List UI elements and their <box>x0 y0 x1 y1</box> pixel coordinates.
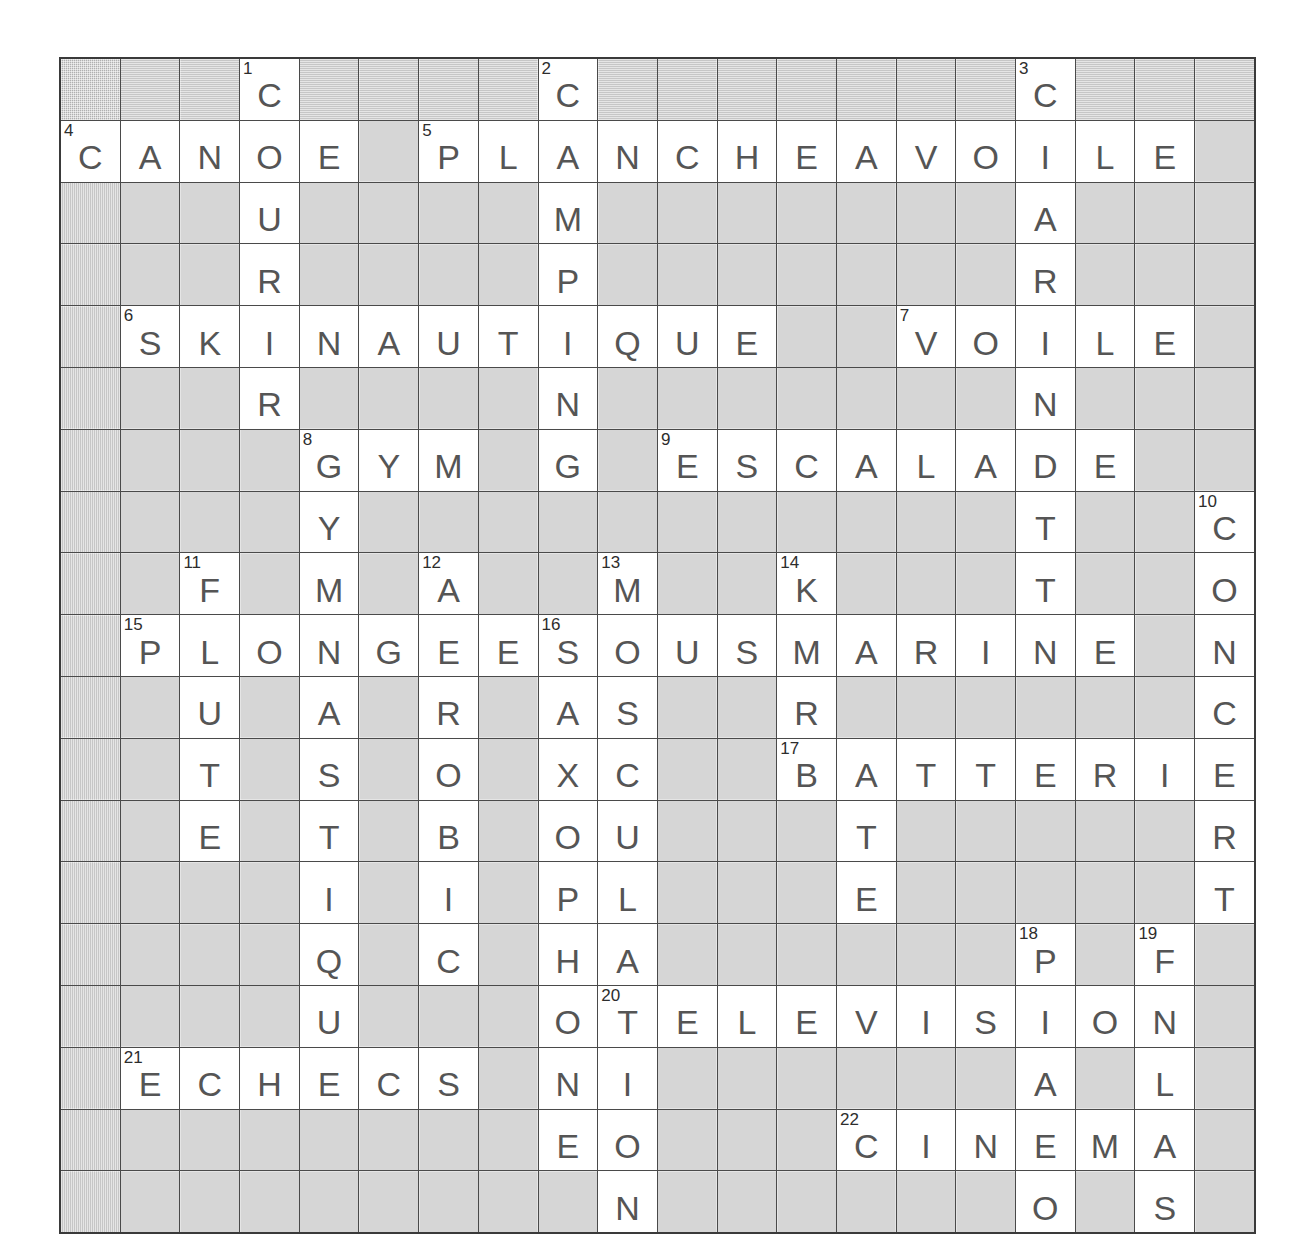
letter-cell[interactable]: O <box>598 615 658 677</box>
letter-cell[interactable]: I <box>419 862 479 924</box>
letter-cell[interactable]: T <box>1195 862 1255 924</box>
letter-cell[interactable]: M <box>538 182 598 244</box>
letter-cell[interactable]: N <box>299 615 359 677</box>
letter-cell[interactable]: R <box>1195 800 1255 862</box>
letter-cell[interactable]: O <box>240 120 300 182</box>
letter-cell[interactable]: L <box>478 120 538 182</box>
letter-cell[interactable]: U <box>240 182 300 244</box>
letter-cell[interactable]: A <box>538 120 598 182</box>
letter-cell[interactable]: E <box>419 615 479 677</box>
letter-cell[interactable]: 8G <box>299 429 359 491</box>
letter-cell[interactable]: 2C <box>538 58 598 120</box>
letter-cell[interactable]: O <box>419 738 479 800</box>
letter-cell[interactable]: A <box>836 429 896 491</box>
letter-cell[interactable]: E <box>299 120 359 182</box>
letter-cell[interactable]: I <box>956 615 1016 677</box>
letter-cell[interactable]: O <box>240 615 300 677</box>
letter-cell[interactable]: O <box>956 120 1016 182</box>
letter-cell[interactable]: A <box>956 429 1016 491</box>
letter-cell[interactable]: A <box>598 924 658 986</box>
letter-cell[interactable]: U <box>299 985 359 1047</box>
letter-cell[interactable]: E <box>657 985 717 1047</box>
letter-cell[interactable]: O <box>538 800 598 862</box>
letter-cell[interactable]: N <box>598 1171 658 1233</box>
letter-cell[interactable]: L <box>1135 1047 1195 1109</box>
letter-cell[interactable]: C <box>359 1047 419 1109</box>
letter-cell[interactable]: 22C <box>836 1109 896 1171</box>
letter-cell[interactable]: L <box>598 862 658 924</box>
letter-cell[interactable]: E <box>538 1109 598 1171</box>
letter-cell[interactable]: T <box>180 738 240 800</box>
letter-cell[interactable]: S <box>717 615 777 677</box>
letter-cell[interactable]: S <box>419 1047 479 1109</box>
letter-cell[interactable]: 9E <box>657 429 717 491</box>
letter-cell[interactable]: U <box>419 306 479 368</box>
letter-cell[interactable]: E <box>1135 306 1195 368</box>
letter-cell[interactable]: 19F <box>1135 924 1195 986</box>
letter-cell[interactable]: T <box>1016 491 1076 553</box>
letter-cell[interactable]: N <box>538 1047 598 1109</box>
letter-cell[interactable]: 16S <box>538 615 598 677</box>
letter-cell[interactable]: 1C <box>240 58 300 120</box>
letter-cell[interactable]: 3C <box>1016 58 1076 120</box>
letter-cell[interactable]: E <box>1135 120 1195 182</box>
letter-cell[interactable]: C <box>598 738 658 800</box>
letter-cell[interactable]: R <box>896 615 956 677</box>
letter-cell[interactable]: E <box>1195 738 1255 800</box>
letter-cell[interactable]: X <box>538 738 598 800</box>
letter-cell[interactable]: 13M <box>598 553 658 615</box>
letter-cell[interactable]: A <box>836 615 896 677</box>
letter-cell[interactable]: O <box>598 1109 658 1171</box>
letter-cell[interactable]: N <box>1135 985 1195 1047</box>
letter-cell[interactable]: B <box>419 800 479 862</box>
letter-cell[interactable]: N <box>956 1109 1016 1171</box>
letter-cell[interactable]: I <box>538 306 598 368</box>
letter-cell[interactable]: H <box>717 120 777 182</box>
letter-cell[interactable]: U <box>657 615 717 677</box>
letter-cell[interactable]: 17B <box>777 738 837 800</box>
letter-cell[interactable]: E <box>478 615 538 677</box>
letter-cell[interactable]: I <box>299 862 359 924</box>
letter-cell[interactable]: E <box>1075 615 1135 677</box>
letter-cell[interactable]: T <box>1016 553 1076 615</box>
letter-cell[interactable]: P <box>538 862 598 924</box>
letter-cell[interactable]: T <box>478 306 538 368</box>
letter-cell[interactable]: S <box>1135 1171 1195 1233</box>
letter-cell[interactable]: U <box>657 306 717 368</box>
letter-cell[interactable]: 4C <box>60 120 120 182</box>
letter-cell[interactable]: M <box>1075 1109 1135 1171</box>
letter-cell[interactable]: M <box>299 553 359 615</box>
letter-cell[interactable]: 6S <box>120 306 180 368</box>
letter-cell[interactable]: Q <box>299 924 359 986</box>
letter-cell[interactable]: S <box>598 676 658 738</box>
letter-cell[interactable]: E <box>717 306 777 368</box>
letter-cell[interactable]: I <box>896 985 956 1047</box>
letter-cell[interactable]: G <box>538 429 598 491</box>
letter-cell[interactable]: K <box>180 306 240 368</box>
letter-cell[interactable]: R <box>777 676 837 738</box>
letter-cell[interactable]: A <box>1016 182 1076 244</box>
letter-cell[interactable]: I <box>1016 985 1076 1047</box>
letter-cell[interactable]: M <box>777 615 837 677</box>
letter-cell[interactable]: 15P <box>120 615 180 677</box>
letter-cell[interactable]: N <box>1195 615 1255 677</box>
letter-cell[interactable]: T <box>896 738 956 800</box>
letter-cell[interactable]: P <box>538 244 598 306</box>
letter-cell[interactable]: E <box>777 985 837 1047</box>
letter-cell[interactable]: R <box>419 676 479 738</box>
letter-cell[interactable]: L <box>1075 120 1135 182</box>
letter-cell[interactable]: H <box>240 1047 300 1109</box>
letter-cell[interactable]: 18P <box>1016 924 1076 986</box>
letter-cell[interactable]: N <box>180 120 240 182</box>
letter-cell[interactable]: E <box>299 1047 359 1109</box>
letter-cell[interactable]: S <box>717 429 777 491</box>
letter-cell[interactable]: C <box>419 924 479 986</box>
letter-cell[interactable]: I <box>1016 120 1076 182</box>
letter-cell[interactable]: 10C <box>1195 491 1255 553</box>
letter-cell[interactable]: C <box>657 120 717 182</box>
letter-cell[interactable]: O <box>538 985 598 1047</box>
letter-cell[interactable]: R <box>1016 244 1076 306</box>
letter-cell[interactable]: 11F <box>180 553 240 615</box>
letter-cell[interactable]: T <box>956 738 1016 800</box>
letter-cell[interactable]: 20T <box>598 985 658 1047</box>
